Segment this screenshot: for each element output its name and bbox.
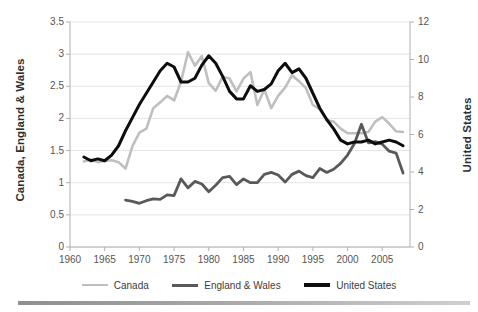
legend-item[interactable]: Canada [82,280,149,291]
y-axis-right-tick-label: 0 [418,241,452,252]
legend-label: United States [336,280,396,291]
legend-item[interactable]: England & Wales [172,280,280,291]
chart-figure: Canada, England & Wales United States 00… [0,0,478,312]
footer-rule [18,301,470,305]
y-axis-right-tick-label: 2 [418,204,452,215]
y-axis-left-tick-label: 3 [30,48,64,59]
legend-label: Canada [114,280,149,291]
y-axis-left-tick-label: 0.5 [30,209,64,220]
plot-area [0,0,478,312]
y-axis-left-tick-label: 1 [30,177,64,188]
y-axis-right-tick-label: 8 [418,91,452,102]
y-axis-right-tick-label: 6 [418,129,452,140]
chart-legend: CanadaEngland & WalesUnited States [70,277,408,293]
x-axis-tick-label: 2005 [362,254,402,265]
legend-item[interactable]: United States [304,280,396,291]
y-axis-right-tick-label: 12 [418,16,452,27]
legend-swatch-icon [172,284,198,287]
y-axis-left-tick-label: 2.5 [30,80,64,91]
y-axis-right-tick-label: 10 [418,54,452,65]
legend-swatch-icon [304,283,330,287]
y-axis-left-tick-label: 0 [30,241,64,252]
y-axis-right-tick-label: 4 [418,166,452,177]
y-axis-left-tick-label: 3.5 [30,16,64,27]
y-axis-left-tick-label: 2 [30,112,64,123]
y-axis-left-tick-label: 1.5 [30,145,64,156]
legend-swatch-icon [82,284,108,287]
legend-label: England & Wales [204,280,280,291]
